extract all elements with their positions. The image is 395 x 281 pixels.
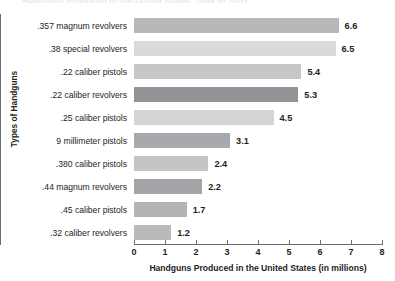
x-axis-tick <box>320 240 321 245</box>
bar <box>134 18 339 33</box>
chart-title: Handguns Produced in the United States, … <box>22 0 247 3</box>
x-axis-tick <box>258 240 259 245</box>
bar-value-label: 1.7 <box>193 205 206 215</box>
bar-row: 9 millimeter pistols3.1 <box>134 129 382 152</box>
category-label: .38 special revolvers <box>49 44 127 54</box>
bar-row: .45 caliber pistols1.7 <box>134 198 382 221</box>
category-label: .22 caliber revolvers <box>50 90 127 100</box>
bar-value-label: 5.3 <box>304 90 317 100</box>
bar <box>134 87 298 102</box>
bar-value-label: 4.5 <box>280 113 293 123</box>
bar-value-label: 2.2 <box>208 182 221 192</box>
bar-value-label: 3.1 <box>236 136 249 146</box>
category-label: .22 caliber pistols <box>61 67 127 77</box>
plot-area: .357 magnum revolvers6.6.38 special revo… <box>134 14 382 244</box>
bar-value-label: 6.6 <box>345 21 358 31</box>
bar <box>134 41 336 56</box>
x-axis-tick <box>196 240 197 245</box>
bar <box>134 156 208 171</box>
bar-row: .22 caliber pistols5.4 <box>134 60 382 83</box>
bar-row: .22 caliber revolvers5.3 <box>134 83 382 106</box>
x-axis-tick-label: 0 <box>131 247 136 257</box>
x-axis-tick-label: 1 <box>162 247 167 257</box>
category-label: .32 caliber revolvers <box>50 228 127 238</box>
x-axis-tick-label: 7 <box>348 247 353 257</box>
category-label: .44 magnum revolvers <box>42 182 127 192</box>
bar-row: .380 caliber pistols2.4 <box>134 152 382 175</box>
category-label: .45 caliber pistols <box>61 205 127 215</box>
y-axis-baseline <box>0 14 1 245</box>
bar-row: .38 special revolvers6.5 <box>134 37 382 60</box>
bar-row: .44 magnum revolvers2.2 <box>134 175 382 198</box>
x-axis-tick-label: 3 <box>224 247 229 257</box>
bar <box>134 179 202 194</box>
bar-value-label: 2.4 <box>214 159 227 169</box>
y-axis-title: Types of Handguns <box>9 49 19 169</box>
bar <box>134 64 301 79</box>
bar <box>134 110 274 125</box>
x-axis-tick <box>382 240 383 245</box>
x-axis-line <box>134 244 382 245</box>
x-axis-tick-label: 6 <box>317 247 322 257</box>
x-axis-tick-label: 2 <box>193 247 198 257</box>
x-axis-tick <box>227 240 228 245</box>
x-axis-tick-label: 4 <box>255 247 260 257</box>
bar <box>134 225 171 240</box>
x-axis-tick <box>165 240 166 245</box>
x-axis-tick <box>351 240 352 245</box>
x-axis-tick-label: 8 <box>379 247 384 257</box>
category-label: .357 magnum revolvers <box>37 21 127 31</box>
bar-row: .25 caliber pistols4.5 <box>134 106 382 129</box>
category-label: 9 millimeter pistols <box>56 136 127 146</box>
category-label: .25 caliber pistols <box>61 113 127 123</box>
bar-value-label: 1.2 <box>177 228 190 238</box>
bar-value-label: 6.5 <box>342 44 355 54</box>
x-axis-title: Handguns Produced in the United States (… <box>134 263 382 273</box>
bar-row: .357 magnum revolvers6.6 <box>134 14 382 37</box>
bar-value-label: 5.4 <box>307 67 320 77</box>
category-label: .380 caliber pistols <box>56 159 127 169</box>
bar <box>134 202 187 217</box>
x-axis-tick-label: 5 <box>286 247 291 257</box>
bar <box>134 133 230 148</box>
x-axis-tick <box>289 240 290 245</box>
bar-chart: Handguns Produced in the United States, … <box>0 0 395 281</box>
x-axis-tick <box>134 240 135 245</box>
